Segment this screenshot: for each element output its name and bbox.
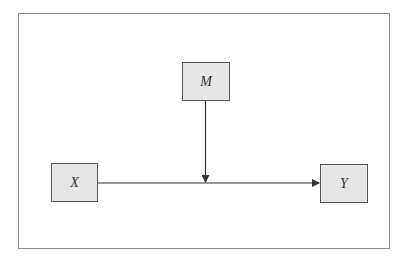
node-m-label: M — [200, 74, 212, 90]
node-y-label: Y — [340, 176, 348, 192]
node-y: Y — [320, 164, 368, 203]
diagram-edges — [0, 0, 406, 265]
node-x: X — [51, 163, 98, 202]
node-x-label: X — [70, 175, 79, 191]
node-m: M — [182, 62, 230, 101]
